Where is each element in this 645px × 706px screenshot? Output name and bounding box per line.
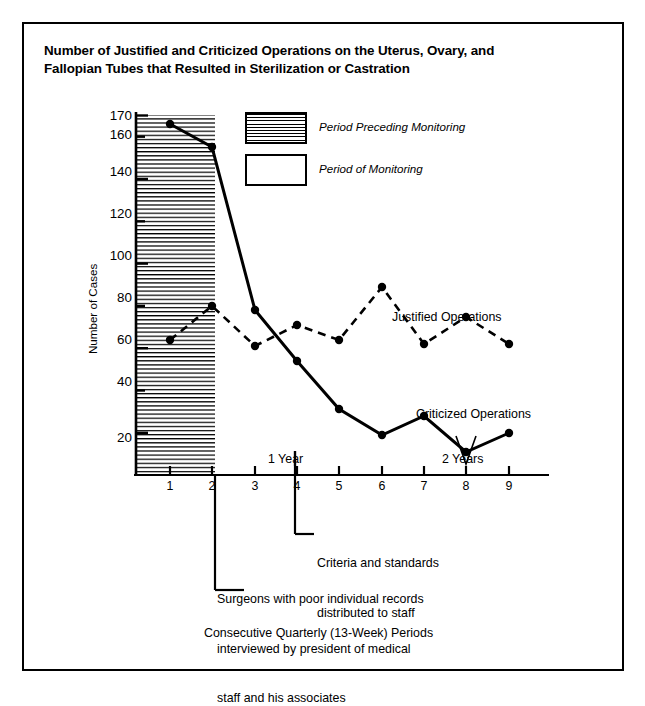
series-line-criticized-operations — [170, 124, 509, 452]
series-markers-justified-operations — [166, 283, 513, 350]
figure-frame: Number of Justified and Criticized Opera… — [22, 22, 624, 671]
chart-plot-area — [24, 24, 622, 669]
shaded-region-period-preceding-monitoring — [136, 115, 215, 475]
x-axis-ticks — [170, 466, 509, 475]
annotation-surgeons-line-3: staff and his associates — [217, 690, 424, 706]
